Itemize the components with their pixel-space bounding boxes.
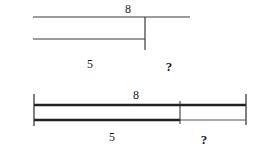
bottom-diagram: 8 5 ? [34,88,246,144]
top-diagram: 8 5 ? [33,2,190,74]
bottom-unknown-label: ? [201,132,208,144]
bottom-part-label: 5 [109,130,115,144]
top-total-label: 8 [125,2,131,16]
bottom-total-label: 8 [133,88,139,102]
top-part-label: 5 [87,57,93,71]
top-unknown-label: ? [166,59,173,74]
part-whole-diagram: 8 5 ? 8 5 ? [0,0,267,144]
